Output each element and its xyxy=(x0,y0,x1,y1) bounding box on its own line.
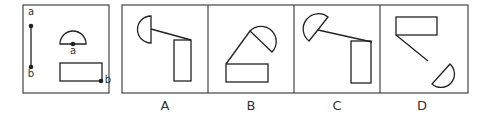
option-b-label[interactable]: B xyxy=(241,98,261,113)
option-b-figure[interactable] xyxy=(226,26,276,82)
option-c-figure[interactable] xyxy=(303,14,372,83)
label-rect-point: b xyxy=(98,74,118,85)
option-c-label[interactable]: C xyxy=(327,98,347,113)
rectangle xyxy=(60,63,102,81)
label-point-b-bottom: b xyxy=(21,68,41,79)
option-a-figure[interactable] xyxy=(138,16,192,81)
label-semicircle-point: a xyxy=(63,45,83,56)
label-point-a-top: a xyxy=(21,6,41,17)
option-a-label[interactable]: A xyxy=(155,98,175,113)
option-d-figure[interactable] xyxy=(396,17,454,87)
option-d-label[interactable]: D xyxy=(412,98,432,113)
figure-puzzle xyxy=(0,0,479,119)
